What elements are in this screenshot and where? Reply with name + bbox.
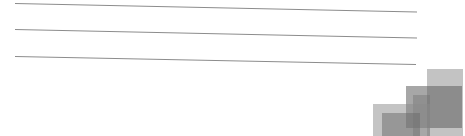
ruled-line-2 <box>15 30 417 39</box>
ruled-line-3 <box>15 57 416 65</box>
square-left-inner <box>382 113 420 136</box>
ruled-line-1 <box>15 4 417 13</box>
